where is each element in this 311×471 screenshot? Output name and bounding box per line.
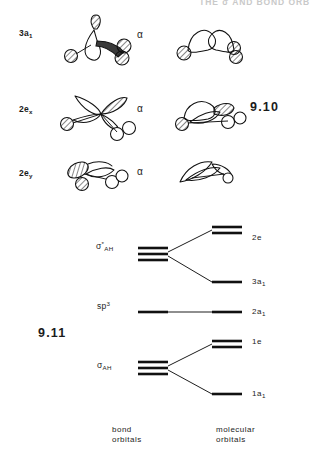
orbital-row-label-2ex: 2ex: [19, 104, 33, 115]
relation-symbol-alpha-row2: α: [137, 103, 143, 114]
orbital-drawing-2ey-left: [58, 150, 138, 202]
orbital-drawing-2ex-right: [170, 92, 255, 144]
orbital-drawing-3a1-left: [58, 13, 138, 73]
bond-orbital-label-sigma-star-ah: σ*AH: [96, 240, 113, 252]
bond-orbital-label-sp3: sp3: [97, 300, 110, 311]
relation-symbol-alpha-row3: α: [137, 166, 143, 177]
figure-number-910: 9.10: [250, 100, 279, 114]
bond-orbital-label-sigma-ah: σAH: [97, 360, 112, 371]
running-header: THE σ AND BOND ORB: [150, 0, 310, 9]
orbital-drawing-2ey-right: [172, 152, 252, 198]
orbital-row-label-2ey: 2ey: [19, 168, 33, 179]
molecular-orbital-label-1e: 1e: [252, 337, 262, 346]
orbital-row-label-3a1: 3a1: [19, 28, 33, 39]
axis-caption-bond-orbitals: bond orbitals: [112, 425, 142, 445]
axis-caption-molecular-orbitals: molecular orbitals: [216, 425, 255, 445]
molecular-orbital-label-2e: 2e: [252, 233, 262, 242]
relation-symbol-alpha-row1: α: [137, 29, 143, 40]
molecular-orbital-label-1a1: 1a1: [252, 389, 266, 399]
orbital-drawing-3a1-right: [172, 20, 252, 66]
correlation-diagram: [130, 222, 250, 402]
molecular-orbital-label-2a1: 2a1: [252, 307, 266, 317]
figure-number-911: 9.11: [38, 326, 66, 340]
orbital-drawing-2ex-left: [55, 86, 140, 148]
figure-page: THE σ AND BOND ORB 3a1 α: [0, 0, 311, 471]
molecular-orbital-label-3a1: 3a1: [252, 277, 266, 287]
